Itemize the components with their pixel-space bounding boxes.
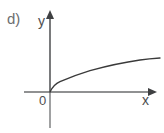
part-label: d) bbox=[7, 11, 20, 26]
plot-curve bbox=[50, 58, 160, 92]
x-axis-arrowhead-icon bbox=[148, 88, 157, 96]
origin-label: 0 bbox=[39, 94, 46, 107]
math-figure-panel: d) y x 0 bbox=[0, 0, 164, 133]
y-axis-label: y bbox=[38, 14, 45, 28]
coordinate-plot-svg bbox=[0, 0, 164, 133]
y-axis-arrowhead-icon bbox=[46, 10, 54, 19]
x-axis-label: x bbox=[142, 93, 149, 107]
